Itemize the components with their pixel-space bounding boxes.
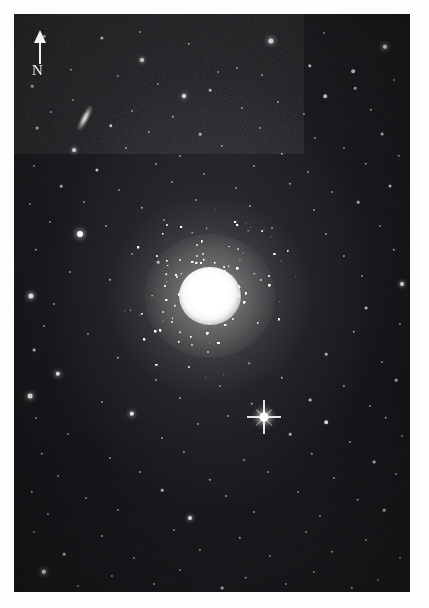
cluster-star <box>223 266 225 268</box>
cluster-star <box>206 332 208 334</box>
cluster-star <box>248 363 250 365</box>
field-star <box>179 155 181 157</box>
field-star <box>305 531 307 533</box>
field-star <box>235 187 237 189</box>
field-star <box>133 557 135 559</box>
cluster-star <box>167 265 169 267</box>
field-star <box>267 471 269 473</box>
field-star <box>401 435 403 437</box>
cluster-star <box>237 267 239 269</box>
field-star <box>139 31 141 33</box>
field-star <box>269 555 271 557</box>
cluster-star <box>159 329 161 331</box>
cluster-star <box>151 295 153 297</box>
field-star <box>400 282 404 286</box>
field-star <box>60 185 63 188</box>
field-star <box>117 509 119 511</box>
cluster-star <box>201 240 203 242</box>
field-star <box>43 35 46 38</box>
field-star <box>188 516 192 520</box>
field-star <box>313 209 315 211</box>
cluster-star <box>179 332 181 334</box>
field-star <box>63 553 66 556</box>
cluster-star <box>130 309 132 311</box>
field-star <box>259 127 261 129</box>
field-star <box>209 89 212 92</box>
field-star <box>325 353 328 356</box>
field-star <box>361 275 363 277</box>
cluster-star <box>245 292 247 294</box>
cluster-star <box>138 246 140 248</box>
field-star <box>131 253 133 255</box>
field-star <box>33 531 35 533</box>
field-star <box>389 185 392 188</box>
field-star <box>243 459 245 461</box>
field-star <box>285 583 287 585</box>
cluster-star <box>209 342 211 344</box>
field-star <box>117 75 119 77</box>
cluster-core <box>179 267 241 325</box>
field-star <box>221 587 224 590</box>
cluster-star <box>155 330 157 332</box>
cluster-star <box>261 231 262 232</box>
field-star <box>354 87 357 90</box>
field-star <box>69 271 71 273</box>
field-star <box>33 165 35 167</box>
field-star <box>83 201 85 203</box>
field-star <box>161 489 164 492</box>
field-star <box>203 173 205 175</box>
cluster-star <box>165 273 167 275</box>
field-star <box>67 433 69 435</box>
photographic-plate: N <box>14 14 410 592</box>
field-star <box>297 491 299 493</box>
field-star <box>77 585 79 587</box>
cluster-star <box>237 248 239 250</box>
field-star <box>28 394 33 399</box>
field-star <box>395 379 398 382</box>
cluster-star <box>180 273 182 275</box>
field-star <box>381 361 383 363</box>
cluster-star <box>180 226 182 228</box>
cluster-star <box>162 311 164 313</box>
cluster-star <box>179 259 181 261</box>
field-star <box>383 509 386 512</box>
field-star <box>219 385 221 387</box>
cluster-star <box>207 351 209 353</box>
cluster-star <box>243 301 245 303</box>
cluster-star <box>224 324 226 326</box>
field-star <box>57 475 59 477</box>
cluster-star <box>236 224 238 226</box>
field-star <box>179 569 181 571</box>
cluster-star <box>191 344 193 346</box>
cluster-star <box>228 246 230 248</box>
field-star <box>324 420 328 424</box>
field-star <box>379 225 381 227</box>
field-star <box>197 423 199 425</box>
field-star <box>357 201 360 204</box>
field-star <box>319 515 321 517</box>
field-star <box>85 497 87 499</box>
cluster-star <box>200 262 202 264</box>
bright-star-core <box>260 413 269 422</box>
field-star <box>31 85 34 88</box>
field-star <box>351 69 355 73</box>
cluster-star <box>192 261 194 263</box>
field-star <box>369 405 371 407</box>
cluster-star <box>166 281 168 283</box>
field-star <box>87 333 89 335</box>
field-star <box>343 147 345 149</box>
cluster-star <box>162 320 163 321</box>
cluster-star <box>195 262 197 264</box>
field-star <box>373 461 376 464</box>
field-star <box>49 221 51 223</box>
field-star <box>109 457 111 459</box>
field-star <box>101 401 103 403</box>
cluster-star <box>234 221 236 223</box>
field-star <box>377 579 379 581</box>
field-star <box>131 110 133 112</box>
field-star <box>323 94 327 98</box>
field-star <box>163 219 165 221</box>
field-star <box>118 189 120 191</box>
cluster-star <box>242 252 243 253</box>
field-star <box>241 107 243 109</box>
